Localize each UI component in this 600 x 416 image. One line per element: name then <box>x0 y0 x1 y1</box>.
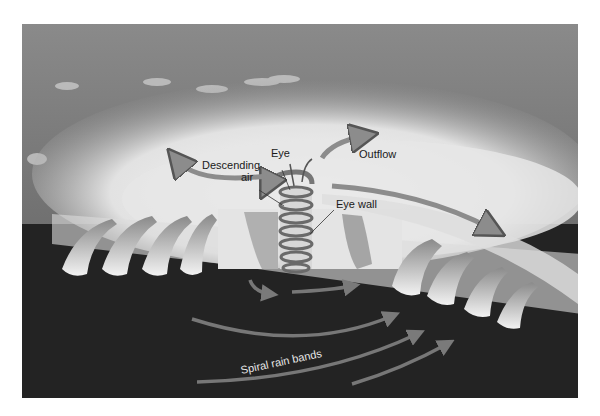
label-descending-air-2: air <box>241 171 253 183</box>
label-descending-air-1: Descending <box>202 159 260 171</box>
hurricane-diagram: Eye Descending air Outflow Eye wall Spir… <box>22 24 578 398</box>
label-outflow: Outflow <box>359 148 396 160</box>
label-eye: Eye <box>271 147 290 159</box>
hurricane-illustration <box>22 24 578 398</box>
label-eye-wall: Eye wall <box>336 198 377 210</box>
